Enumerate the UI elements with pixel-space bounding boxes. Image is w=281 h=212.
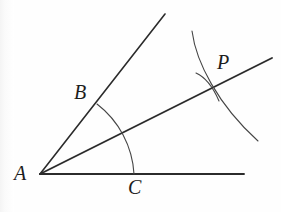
ray-AP-bisector bbox=[40, 58, 272, 174]
vertex-label-a: A bbox=[14, 163, 26, 183]
vertex-label-b: B bbox=[74, 82, 86, 102]
ray-AB bbox=[40, 14, 165, 174]
vertex-label-c: C bbox=[128, 177, 141, 197]
angle-arc-from-vertex bbox=[97, 104, 134, 174]
compass-arc-large bbox=[192, 31, 258, 141]
vertex-label-p: P bbox=[217, 52, 229, 72]
geometry-figure: A B C P bbox=[0, 0, 281, 212]
